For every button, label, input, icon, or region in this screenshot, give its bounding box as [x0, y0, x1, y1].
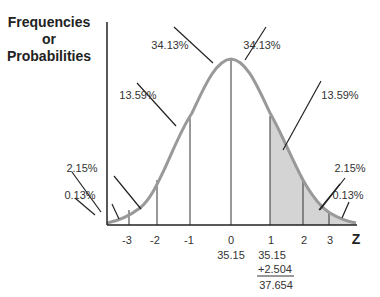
calc-result: 37.654	[259, 279, 293, 291]
tick-labels: -3 -2 -1 0 1 2 3	[122, 234, 333, 246]
tail-left-leader	[112, 204, 119, 219]
calc-line2: +2.504	[258, 263, 292, 275]
tick-0: 0	[228, 234, 234, 246]
pct-outer-left: 2.15%	[66, 162, 97, 174]
tick-neg3: -3	[122, 234, 132, 246]
pct-tail-left: 0.13%	[64, 189, 95, 201]
pct-center-right: 34.13%	[243, 39, 281, 51]
tick-2: 2	[301, 234, 307, 246]
normal-curve-diagram: 34.13% 34.13% 13.59% 13.59% 2.15% 2.15% …	[0, 0, 380, 297]
pct-tail-right: 0.13%	[332, 189, 363, 201]
tick-neg2: -2	[150, 234, 160, 246]
pct-mid-right: 13.59%	[321, 89, 359, 101]
tick-1: 1	[268, 234, 274, 246]
pct-mid-left: 13.59%	[119, 89, 157, 101]
outer-left-leader	[114, 176, 141, 209]
calc-line1: 35.15	[258, 249, 286, 261]
pct-center-left: 34.13%	[151, 39, 189, 51]
tick-3: 3	[327, 234, 333, 246]
z-axis-label: Z	[352, 231, 361, 247]
tail-right-leader	[342, 202, 349, 218]
pct-outer-right: 2.15%	[334, 162, 365, 174]
mean-value: 35.15	[217, 249, 245, 261]
tick-neg1: -1	[184, 234, 194, 246]
